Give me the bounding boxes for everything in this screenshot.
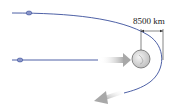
incoming-arrow-icon [100, 53, 131, 67]
orbital-diagram: 8500 km [0, 0, 172, 109]
planet-icon [132, 50, 150, 68]
outgoing-arrow-icon [94, 90, 123, 104]
distance-label: 8500 km [133, 16, 165, 26]
spacecraft-lower-icon [17, 58, 23, 62]
spacecraft-upper-icon [26, 11, 32, 15]
